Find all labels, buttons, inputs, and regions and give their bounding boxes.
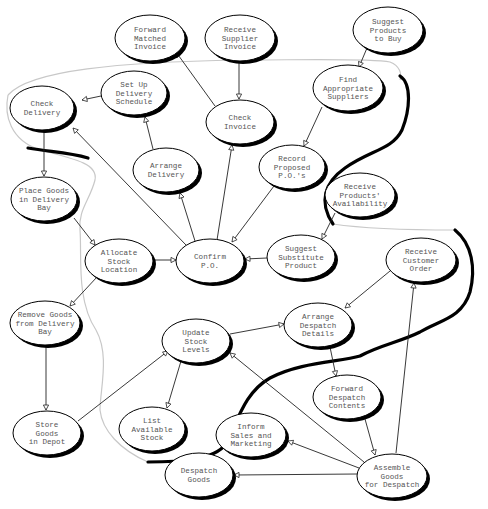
node-label: Invoice (224, 43, 256, 51)
node-label: Despatch (329, 394, 365, 402)
node-label: List (143, 417, 161, 425)
edge-arrange-delivery-to-set-up-delivery-schedule (144, 117, 153, 149)
node-inform-sales-and-marketing[interactable]: InformSales andMarketing (216, 413, 289, 460)
node-remove-goods-from-delivery-bay[interactable]: Remove Goodsfrom DeliveryBay (10, 301, 83, 348)
node-label: Despatch (181, 467, 217, 475)
nodes: ForwardMatchedInvoiceReceiveSupplierInvo… (10, 7, 459, 501)
node-label: Order (410, 265, 433, 273)
edge-find-appropriate-suppliers-to-record-proposed-pos (304, 107, 322, 146)
node-suggest-products-to-buy[interactable]: SuggestProductsto Buy (353, 7, 426, 56)
arrowhead-icon (41, 171, 46, 176)
node-place-goods-in-delivery-bay[interactable]: Place Goodsin DeliveryBay (11, 177, 80, 224)
node-label: Delivery (24, 109, 61, 117)
arrowhead-icon (304, 140, 309, 146)
node-label: Despatch (300, 322, 336, 330)
node-label: Availability (333, 200, 388, 208)
node-label: Available (131, 426, 172, 434)
edge-allocate-stock-location-to-remove-goods-from-delivery-bay (70, 277, 97, 306)
node-label: Invoice (224, 123, 256, 131)
node-label: Proposed (274, 164, 310, 172)
node-assemble-goods-for-despatch[interactable]: AssembleGoodsfor Despatch (357, 454, 430, 501)
node-label: Suppliers (327, 93, 368, 101)
node-label: in Depot (29, 438, 65, 446)
node-forward-matched-invoice[interactable]: ForwardMatchedInvoice (115, 15, 188, 64)
node-label: Allocate (101, 249, 138, 257)
node-label: Place Goods (19, 187, 69, 195)
node-arrange-delivery[interactable]: ArrangeDelivery (133, 148, 202, 195)
node-suggest-substitute-product[interactable]: SuggestSubstituteProduct (267, 235, 338, 282)
node-record-proposed-pos[interactable]: RecordProposedP.O.'s (259, 145, 328, 192)
node-label: Receive (224, 26, 256, 34)
node-label: P.O.'s (278, 172, 305, 180)
edge-place-goods-in-delivery-bay-to-allocate-stock-location (74, 218, 95, 245)
node-label: Marketing (230, 440, 271, 448)
node-label: Arrange (150, 162, 182, 170)
node-label: Stock (141, 434, 164, 442)
edge-set-up-delivery-schedule-to-check-delivery (82, 96, 101, 102)
node-find-appropriate-suppliers[interactable]: FindAppropriateSuppliers (313, 65, 386, 114)
node-label: Update (182, 329, 210, 337)
node-store-goods-in-depot[interactable]: StoreGoodsin Depot (13, 411, 84, 458)
edge-suggest-products-to-buy-to-find-appropriate-suppliers (359, 48, 368, 67)
node-label: Forward (134, 26, 166, 34)
node-label: Product (285, 262, 317, 270)
edge-forward-despatch-contents-to-assemble-goods-for-despatch (365, 419, 376, 455)
arrowhead-icon (90, 240, 95, 246)
node-label: Delivery (116, 90, 153, 98)
arrowhead-icon (171, 257, 176, 262)
node-forward-despatch-contents[interactable]: ForwardDespatchContents (313, 375, 384, 422)
node-label: Suggest (285, 245, 317, 253)
edge-assemble-goods-for-despatch-to-despatch-goods (234, 472, 357, 477)
node-label: Appropriate (323, 85, 374, 93)
node-label: Products (370, 27, 406, 35)
arrowhead-icon (166, 403, 171, 409)
node-label: Remove Goods (18, 311, 73, 319)
node-label: Bay (38, 328, 52, 336)
edge-check-delivery-to-place-goods-in-delivery-bay (41, 130, 46, 176)
node-label: to Buy (374, 35, 402, 43)
arrowhead-icon (144, 117, 149, 123)
arrowhead-icon (236, 94, 241, 99)
edge-allocate-stock-location-to-confirm-po (153, 257, 176, 262)
node-receive-supplier-invoice[interactable]: ReceiveSupplierInvoice (205, 15, 278, 64)
node-label: Goods (381, 473, 404, 481)
arrowhead-icon (371, 450, 376, 456)
arrowhead-icon (279, 322, 284, 327)
edge-assemble-goods-for-despatch-to-inform-sales-and-marketing (288, 440, 359, 468)
node-label: Receive (344, 183, 376, 191)
node-label: in Delivery (19, 196, 70, 204)
node-set-up-delivery-schedule[interactable]: Set UpDeliverySchedule (101, 71, 170, 118)
node-list-available-stock[interactable]: ListAvailableStock (119, 407, 188, 454)
node-label: Set Up (120, 81, 148, 89)
arrowhead-icon (179, 193, 184, 199)
node-label: Schedule (116, 98, 153, 106)
arrowhead-icon (232, 236, 237, 242)
node-check-delivery[interactable]: CheckDelivery (10, 86, 77, 133)
edge-confirm-po-to-arrange-delivery (179, 193, 195, 241)
node-label: Matched (134, 35, 166, 43)
edge-confirm-po-to-check-invoice (217, 145, 234, 240)
node-receive-products-availability[interactable]: ReceiveProducts'Availability (325, 173, 398, 220)
node-label: for Despatch (365, 481, 420, 489)
arrowhead-icon (82, 96, 87, 101)
node-label: Delivery (148, 171, 185, 179)
node-label: Location (101, 266, 137, 274)
node-arrange-despatch-details[interactable]: ArrangeDespatchDetails (284, 303, 355, 350)
arrowhead-icon (288, 440, 294, 445)
node-label: Bay (37, 204, 51, 212)
node-despatch-goods[interactable]: DespatchGoods (165, 453, 236, 500)
node-label: Goods (36, 430, 59, 438)
node-check-invoice[interactable]: CheckInvoice (206, 100, 277, 147)
node-update-stock-levels[interactable]: UpdateStockLevels (162, 319, 233, 366)
edge-assemble-goods-for-despatch-to-receive-customer-order (396, 283, 416, 453)
node-label: Check (31, 100, 54, 108)
node-confirm-po[interactable]: ConfirmP.O. (176, 239, 247, 286)
node-label: P.O. (201, 262, 219, 270)
node-label: Invoice (134, 43, 166, 51)
process-diagram: ForwardMatchedInvoiceReceiveSupplierInvo… (0, 0, 488, 509)
node-label: Store (36, 421, 59, 429)
edge-suggest-substitute-product-to-confirm-po (245, 256, 267, 261)
edge-update-stock-levels-to-arrange-despatch-details (230, 322, 284, 334)
node-label: Check (229, 114, 252, 122)
node-receive-customer-order[interactable]: ReceiveCustomerOrder (386, 238, 459, 285)
